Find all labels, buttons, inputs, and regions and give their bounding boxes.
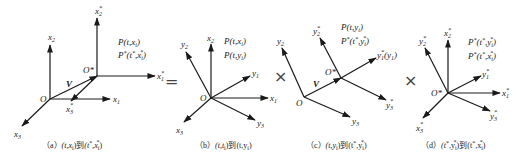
label-x3: x3 — [175, 125, 183, 136]
caption-d: （d）(t*,yi*)到(t*,xi*) — [421, 139, 486, 151]
axis-y2 — [186, 52, 211, 98]
label-y2-star: y2* — [312, 25, 320, 37]
panel-a: x2 x1 x3 O V O* x2* x1* x3* P(t,xi) P*(t… — [13, 5, 164, 151]
point-p-x: P(t,xi) — [223, 36, 246, 47]
vector-v — [50, 76, 97, 99]
axis-y2-star — [425, 48, 448, 93]
times-operator-1: × — [274, 67, 287, 86]
axis-y3 — [304, 97, 350, 117]
label-y2-star: y2* — [418, 35, 426, 47]
caption-c: （c）(t,yi)到(t*,yi*) — [306, 139, 367, 151]
point-p: P(t,xi) — [117, 37, 140, 48]
label-origin: O — [296, 98, 303, 108]
label-x3: x3 — [13, 129, 21, 140]
label-x3-star: x3* — [65, 102, 73, 115]
label-x1-star: x1* — [501, 87, 509, 99]
label-vector-v: V — [313, 79, 320, 89]
axis-y1-star — [448, 76, 481, 93]
point-p-y: P(t,yi) — [223, 50, 246, 61]
panel-b: x2 y2 y1 x1 y3 x3 O P(t,xi) P(t,yi) （b）(… — [175, 33, 277, 151]
point-p-star-y: P*(t*,yi*) — [467, 36, 496, 48]
label-x2-star: x2* — [443, 27, 451, 39]
label-origin: O — [40, 94, 47, 104]
label-x2: x2 — [206, 33, 214, 44]
axis-y1-star — [341, 58, 376, 78]
label-x1: x1 — [269, 93, 277, 104]
caption-a: （a）(t,xi)到(t*,xi*) — [42, 139, 102, 151]
times-operator-2: × — [404, 71, 417, 90]
axis-y3 — [211, 98, 255, 120]
label-origin-star: O* — [325, 67, 336, 77]
vector-v — [304, 78, 341, 97]
label-vector-v: V — [66, 79, 73, 89]
label-y2: y2 — [276, 36, 284, 47]
label-origin-star: O* — [431, 88, 442, 98]
point-p-star-x: P*(t*,xi*) — [467, 50, 496, 62]
label-y3-star: y3* — [385, 98, 393, 111]
label-x1-star: x1* — [156, 70, 164, 82]
diagram-canvas: x2 x1 x3 O V O* x2* x1* x3* P(t,xi) P*(t… — [0, 0, 517, 157]
label-origin-star: O* — [83, 65, 94, 75]
axis-y1 — [211, 76, 250, 98]
label-x3-star: x3* — [415, 121, 423, 134]
panel-c: y2 y3 O V O* y2* y1*(y1) y3* P(t,yi) P*(… — [276, 22, 397, 151]
label-y2: y2 — [180, 39, 188, 50]
equals-operator: = — [165, 72, 178, 91]
point-p-star: P*(t*,yi*) — [340, 35, 369, 47]
label-y1-star: y1* — [481, 68, 489, 80]
axis-y3-star — [341, 78, 386, 100]
point-p-star: P*(t*,xi*) — [117, 49, 146, 61]
label-origin: O — [200, 93, 207, 103]
panel-d: x2* y2* y1* x1* y3* x3* O* P*(t*,yi*) P*… — [415, 27, 509, 151]
label-y3: y3 — [256, 118, 264, 129]
label-x2-star: x2* — [94, 5, 102, 17]
label-y3-star: y3* — [489, 109, 497, 122]
label-x1: x1 — [112, 94, 120, 105]
label-x2: x2 — [47, 32, 55, 43]
label-y1-star: y1*(y1) — [376, 49, 397, 61]
label-y3: y3 — [351, 116, 359, 127]
axis-x3 — [184, 98, 211, 122]
point-p: P(t,yi) — [340, 22, 363, 33]
caption-b: （b）(t,ti)到(t,yi) — [195, 141, 252, 151]
coordinate-transform-diagram: x2 x1 x3 O V O* x2* x1* x3* P(t,xi) P*(t… — [0, 0, 517, 157]
label-y1: y1 — [251, 68, 259, 79]
axis-y3-star — [448, 93, 490, 111]
axis-x3-star — [71, 76, 97, 101]
